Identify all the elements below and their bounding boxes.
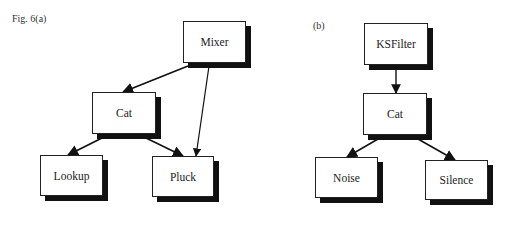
- edge-cat-noise: [347, 139, 378, 157]
- edge-cat-silence: [418, 139, 455, 160]
- node-label: Cat: [116, 107, 132, 119]
- node-mixer: Mixer: [183, 21, 246, 63]
- node-box: Mixer: [183, 21, 246, 63]
- node-label: Pluck: [170, 171, 196, 183]
- node-box: Pluck: [152, 156, 214, 197]
- node-box: Lookup: [40, 155, 103, 196]
- node-label: KSFilter: [376, 38, 416, 50]
- node-label: Cat: [387, 108, 403, 120]
- node-label: Noise: [333, 172, 360, 184]
- node-box: KSFilter: [364, 23, 428, 65]
- edge-cat-lookup: [68, 138, 102, 155]
- node-label: Lookup: [54, 170, 90, 182]
- node-box: Silence: [425, 160, 488, 200]
- node-box: Noise: [315, 157, 378, 198]
- node-ksfilter: KSFilter: [364, 23, 428, 65]
- edge-cat-pluck: [146, 138, 183, 156]
- node-box: Cat: [363, 93, 427, 135]
- node-noise: Noise: [315, 157, 378, 198]
- edge-mixer-cat: [123, 66, 188, 92]
- node-label: Silence: [440, 174, 474, 186]
- node-cat-a: Cat: [92, 92, 156, 134]
- node-label: Mixer: [200, 36, 228, 48]
- edge-mixer-pluck: [196, 66, 209, 156]
- node-lookup: Lookup: [40, 155, 103, 196]
- node-box: Cat: [92, 92, 156, 134]
- node-silence: Silence: [425, 160, 488, 200]
- node-pluck: Pluck: [152, 156, 214, 197]
- node-cat-b: Cat: [363, 93, 427, 135]
